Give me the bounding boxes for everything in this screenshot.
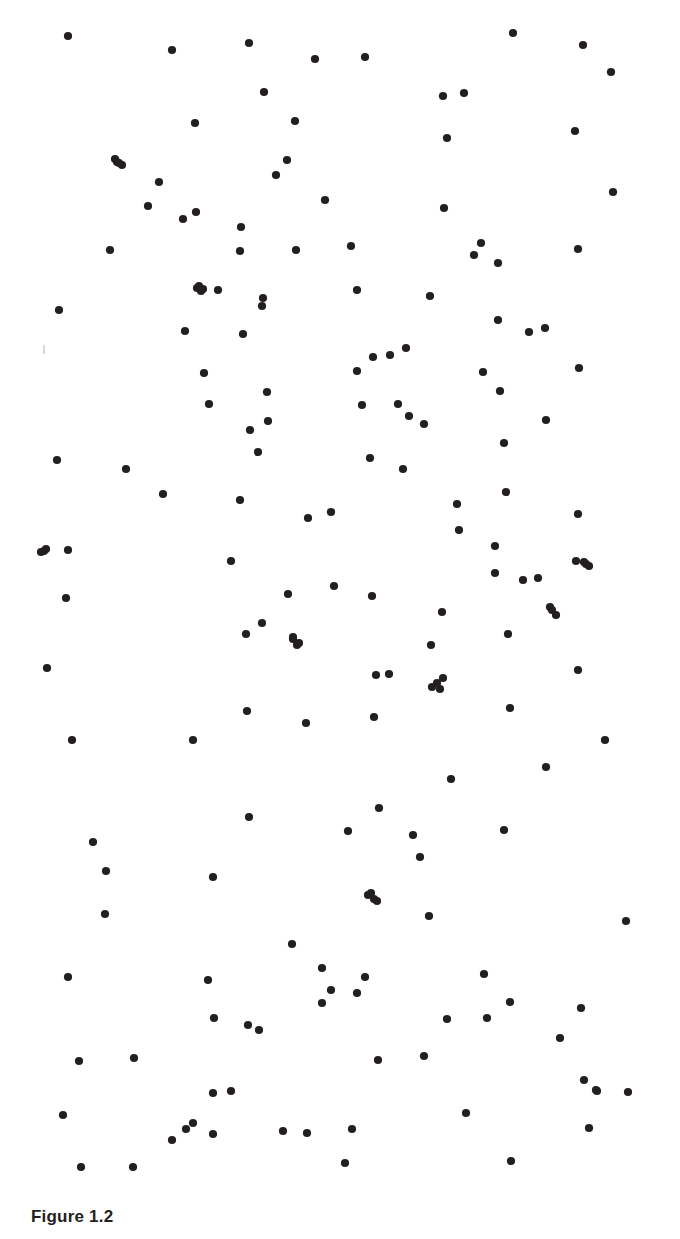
scatter-point bbox=[43, 664, 51, 672]
scatter-point bbox=[318, 999, 326, 1007]
scatter-point bbox=[159, 490, 167, 498]
scatter-point bbox=[75, 1057, 83, 1065]
scatter-point bbox=[258, 619, 266, 627]
scatter-point bbox=[236, 496, 244, 504]
scatter-point bbox=[344, 827, 352, 835]
scatter-point bbox=[68, 736, 76, 744]
scatter-point bbox=[214, 286, 222, 294]
scatter-point bbox=[209, 1130, 217, 1138]
scatter-point bbox=[609, 188, 617, 196]
scatter-point bbox=[506, 998, 514, 1006]
scatter-point bbox=[405, 412, 413, 420]
scatter-point bbox=[246, 426, 254, 434]
scatter-point bbox=[189, 1119, 197, 1127]
figure-page: Figure 1.2 bbox=[0, 0, 680, 1239]
scatter-point bbox=[367, 889, 375, 897]
scatter-point bbox=[244, 1021, 252, 1029]
scatter-point bbox=[327, 508, 335, 516]
scatter-point bbox=[353, 286, 361, 294]
scatter-point bbox=[624, 1088, 632, 1096]
scatter-point bbox=[210, 1014, 218, 1022]
scatter-point bbox=[480, 970, 488, 978]
scatter-point bbox=[289, 633, 297, 641]
scatter-point bbox=[579, 41, 587, 49]
scatter-point bbox=[303, 1129, 311, 1137]
scatter-point bbox=[102, 867, 110, 875]
scatter-point bbox=[236, 247, 244, 255]
scatter-point bbox=[291, 117, 299, 125]
scatter-point bbox=[507, 1157, 515, 1165]
scatter-point bbox=[585, 562, 593, 570]
scatter-point bbox=[279, 1127, 287, 1135]
scatter-point bbox=[179, 215, 187, 223]
scatter-point bbox=[447, 775, 455, 783]
scatter-point bbox=[129, 1163, 137, 1171]
scatter-point bbox=[394, 400, 402, 408]
stray-speck-artifact bbox=[43, 345, 45, 354]
scatter-point bbox=[462, 1109, 470, 1117]
scatter-point bbox=[402, 344, 410, 352]
scatter-point bbox=[209, 1089, 217, 1097]
scatter-point bbox=[59, 1111, 67, 1119]
scatter-point bbox=[353, 367, 361, 375]
scatter-point bbox=[577, 1004, 585, 1012]
scatter-point bbox=[548, 606, 556, 614]
scatter-point bbox=[205, 400, 213, 408]
scatter-point bbox=[443, 134, 451, 142]
scatter-point bbox=[189, 736, 197, 744]
scatter-point bbox=[491, 542, 499, 550]
scatter-point bbox=[506, 704, 514, 712]
scatter-point bbox=[375, 804, 383, 812]
scatter-point bbox=[443, 1015, 451, 1023]
scatter-point bbox=[243, 707, 251, 715]
scatter-point bbox=[470, 251, 478, 259]
scatter-point bbox=[227, 557, 235, 565]
scatter-point bbox=[115, 159, 123, 167]
scatter-point bbox=[318, 964, 326, 972]
figure-caption: Figure 1.2 bbox=[31, 1207, 113, 1227]
scatter-point bbox=[209, 873, 217, 881]
scatter-point bbox=[89, 838, 97, 846]
scatter-point bbox=[348, 1125, 356, 1133]
scatter-point bbox=[399, 465, 407, 473]
scatter-point bbox=[601, 736, 609, 744]
scatter-point bbox=[440, 204, 448, 212]
scatter-point bbox=[53, 456, 61, 464]
scatter-point bbox=[369, 353, 377, 361]
scatter-point bbox=[204, 976, 212, 984]
scatter-point bbox=[168, 1136, 176, 1144]
scatter-point bbox=[101, 910, 109, 918]
scatter-point bbox=[260, 88, 268, 96]
scatter-point bbox=[494, 259, 502, 267]
scatter-point bbox=[106, 246, 114, 254]
scatter-point bbox=[425, 912, 433, 920]
scatter-point bbox=[358, 401, 366, 409]
scatter-point bbox=[368, 592, 376, 600]
scatter-point bbox=[272, 171, 280, 179]
scatter-point bbox=[311, 55, 319, 63]
scatter-point bbox=[592, 1086, 600, 1094]
scatter-point bbox=[491, 569, 499, 577]
scatter-point bbox=[453, 500, 461, 508]
scatter-point bbox=[341, 1159, 349, 1167]
scatter-point bbox=[433, 679, 441, 687]
scatter-point bbox=[122, 465, 130, 473]
scatter-point bbox=[525, 328, 533, 336]
scatter-point bbox=[607, 68, 615, 76]
scatter-point bbox=[541, 324, 549, 332]
scatter-point bbox=[502, 488, 510, 496]
scatter-point bbox=[572, 557, 580, 565]
scatter-point bbox=[460, 89, 468, 97]
scatter-point bbox=[542, 763, 550, 771]
scatter-point bbox=[483, 1014, 491, 1022]
scatter-point bbox=[144, 202, 152, 210]
scatter-point bbox=[500, 439, 508, 447]
scatter-point bbox=[438, 608, 446, 616]
scatter-point bbox=[370, 713, 378, 721]
scatter-point bbox=[504, 630, 512, 638]
scatter-point bbox=[361, 53, 369, 61]
scatter-point bbox=[64, 973, 72, 981]
scatter-point bbox=[64, 32, 72, 40]
scatter-point bbox=[361, 973, 369, 981]
scatter-point bbox=[130, 1054, 138, 1062]
